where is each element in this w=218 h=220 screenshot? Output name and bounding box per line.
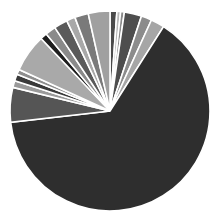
pie-slices <box>10 11 210 211</box>
pie-chart <box>0 0 218 220</box>
